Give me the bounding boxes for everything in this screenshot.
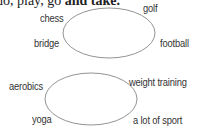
word-aerobics: aerobics — [9, 80, 43, 92]
ellipse-1 — [63, 8, 155, 58]
word-football: football — [160, 37, 189, 49]
word-bridge: bridge — [34, 37, 59, 49]
ellipse-diagrams — [0, 0, 200, 131]
word-golf: golf — [143, 2, 157, 14]
word-weight-training: weight training — [129, 76, 187, 88]
word-yoga: yoga — [32, 113, 52, 125]
ellipse-2 — [45, 73, 137, 125]
word-chess: chess — [40, 12, 64, 24]
word-a-lot-of-sport: a lot of sport — [133, 114, 182, 126]
